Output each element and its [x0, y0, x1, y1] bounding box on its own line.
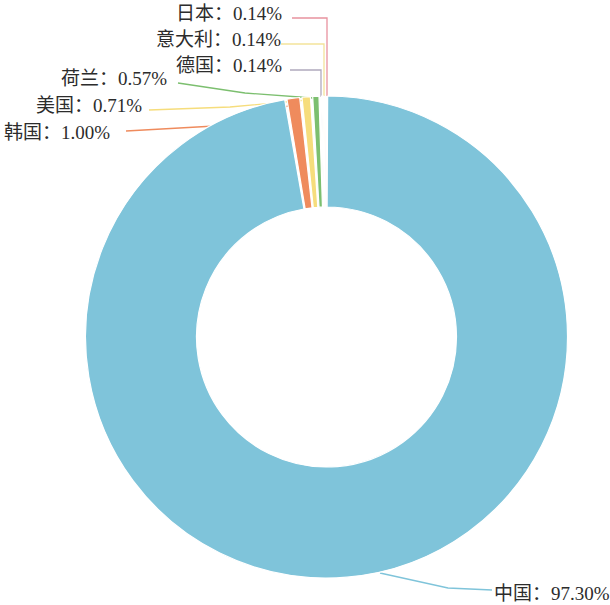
slice-label-usa: 美国：0.71% — [36, 95, 142, 117]
slice-label-germany: 德国：0.14% — [176, 55, 282, 77]
slice-label-netherlands: 荷兰：0.57% — [61, 68, 167, 90]
leader-line-japan — [292, 18, 327, 96]
slice-label-japan: 日本：0.14% — [176, 3, 282, 25]
slice-label-korea: 韩国：1.00% — [4, 122, 110, 144]
slice-japan[interactable] — [326, 96, 327, 207]
leader-line-china — [380, 573, 492, 590]
donut-slices-group — [86, 96, 568, 578]
slice-label-italy: 意大利：0.14% — [156, 29, 281, 51]
leader-line-netherlands — [178, 83, 313, 98]
leader-line-germany — [290, 70, 321, 97]
slice-label-china: 中国：97.30% — [494, 583, 610, 605]
